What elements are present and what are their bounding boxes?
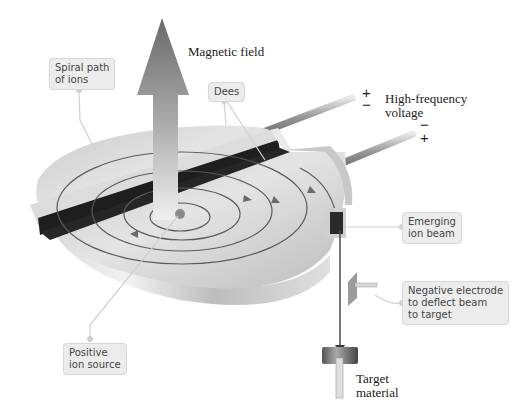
- callout-dees: Dees: [208, 82, 245, 102]
- callout-emerging-ion-beam: Emerging ion beam: [402, 212, 462, 244]
- target-material-label: Target material: [356, 372, 399, 400]
- callout-line: to target: [408, 309, 503, 321]
- callout-spiral-path: Spiral path of ions: [49, 58, 115, 90]
- cyclotron-diagram: Magnetic field High-frequency voltage Ta…: [0, 0, 513, 411]
- upper-terminal-minus: −: [362, 100, 371, 110]
- callout-line: ion source: [69, 359, 121, 371]
- label-line: Target: [356, 372, 399, 386]
- target-material: [322, 347, 358, 398]
- callout-line: ion beam: [408, 228, 456, 240]
- callout-line: Dees: [214, 86, 239, 98]
- lower-terminal-plus: +: [420, 133, 429, 143]
- callout-line: of ions: [55, 74, 109, 86]
- callout-line: to deflect beam: [408, 297, 503, 309]
- callout-positive-ion-source: Positive ion source: [63, 343, 127, 375]
- callout-line: Negative electrode: [408, 285, 503, 297]
- magnetic-field-label: Magnetic field: [188, 45, 264, 59]
- callout-line: Positive: [69, 347, 121, 359]
- label-line: material: [356, 386, 399, 400]
- negative-electrode: [348, 272, 377, 306]
- label-text: Magnetic field: [188, 45, 264, 59]
- callout-negative-electrode: Negative electrode to deflect beam to ta…: [402, 281, 509, 325]
- label-line: High-frequency: [385, 92, 467, 106]
- callout-line: Spiral path: [55, 62, 109, 74]
- callout-line: Emerging: [408, 216, 456, 228]
